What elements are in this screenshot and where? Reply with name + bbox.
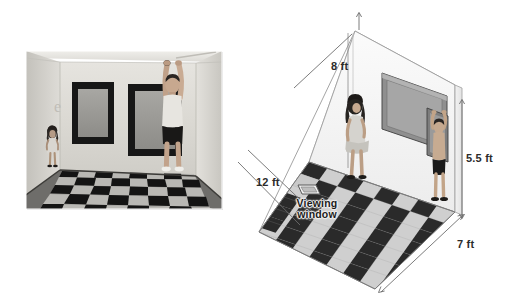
diagram-panel [238, 12, 465, 293]
photo-wall-mark: e [54, 98, 61, 115]
photo-content: e [26, 51, 222, 209]
dimension-label-height-right: 5.5 ft [466, 152, 493, 164]
diagram-right-wall [455, 85, 462, 215]
viewing-window-label-line2: window [289, 209, 345, 220]
viewing-window-label: Viewing window [289, 198, 345, 220]
photo-right-wall [196, 51, 222, 199]
photograph-panel: e [26, 51, 223, 210]
photo-window-left [72, 82, 114, 144]
figure-canvas: e [0, 0, 517, 297]
viewing-window-marker [298, 185, 320, 194]
dimension-label-height-left: 8 ft [331, 60, 348, 72]
dimension-label-width-front: 7 ft [457, 238, 474, 250]
dimension-label-depth-left: 12 ft [256, 176, 280, 188]
ames-room-figure: e [0, 0, 517, 297]
photo-floor-checker [40, 171, 213, 209]
